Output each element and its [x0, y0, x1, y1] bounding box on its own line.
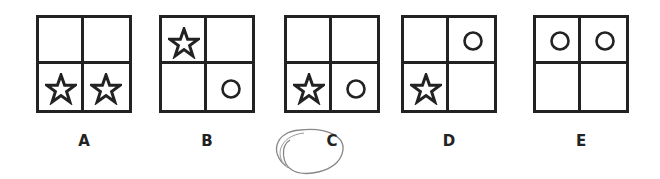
option-grid — [401, 15, 497, 113]
grid-cell — [207, 64, 252, 110]
grid-cell — [449, 18, 494, 64]
grid-cell — [84, 18, 129, 64]
grid-cell — [287, 64, 332, 110]
grid-cell — [581, 18, 626, 64]
star-icon — [45, 73, 77, 105]
star-icon — [410, 73, 442, 105]
circle-icon — [220, 78, 242, 100]
grid-cell — [332, 18, 377, 64]
option-grid — [36, 15, 132, 113]
grid-cell — [207, 18, 252, 64]
grid-cell — [39, 64, 84, 110]
option-b[interactable] — [159, 15, 255, 113]
circle-icon — [549, 30, 571, 52]
option-label: D — [401, 132, 497, 150]
grid-cell — [287, 18, 332, 64]
circle-icon — [462, 30, 484, 52]
grid-cell — [84, 64, 129, 110]
grid-cell — [536, 64, 581, 110]
star-icon — [90, 73, 122, 105]
option-grid — [159, 15, 255, 113]
star-icon — [293, 73, 325, 105]
option-d[interactable] — [401, 15, 497, 113]
option-c[interactable] — [284, 15, 380, 113]
option-a[interactable] — [36, 15, 132, 113]
option-grid — [533, 15, 629, 113]
option-label: C — [284, 132, 380, 150]
grid-cell — [581, 64, 626, 110]
option-label: B — [159, 132, 255, 150]
grid-cell — [536, 18, 581, 64]
grid-cell — [332, 64, 377, 110]
grid-cell — [404, 18, 449, 64]
circle-icon — [345, 78, 367, 100]
option-grid — [284, 15, 380, 113]
grid-cell — [162, 18, 207, 64]
grid-cell — [39, 18, 84, 64]
grid-cell — [404, 64, 449, 110]
option-label: A — [36, 132, 132, 150]
grid-cell — [162, 64, 207, 110]
grid-cell — [449, 64, 494, 110]
circle-icon — [594, 30, 616, 52]
option-label: E — [533, 132, 629, 150]
star-icon — [168, 27, 200, 59]
option-e[interactable] — [533, 15, 629, 113]
